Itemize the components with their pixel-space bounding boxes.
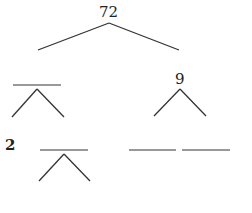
branch-root-right [109,23,179,50]
branch-lower-a [39,154,64,181]
branch-left-b [37,89,64,117]
branch-lower-b [64,154,90,181]
branch-root-left [38,23,109,50]
left-grandchild-value: 2 [5,138,15,153]
root-value: 72 [99,5,118,20]
branch-nine-b [180,89,206,116]
right-child-value: 9 [175,72,185,87]
factor-tree-lines [0,0,252,213]
branch-left-a [12,89,37,117]
branch-nine-a [154,89,180,116]
